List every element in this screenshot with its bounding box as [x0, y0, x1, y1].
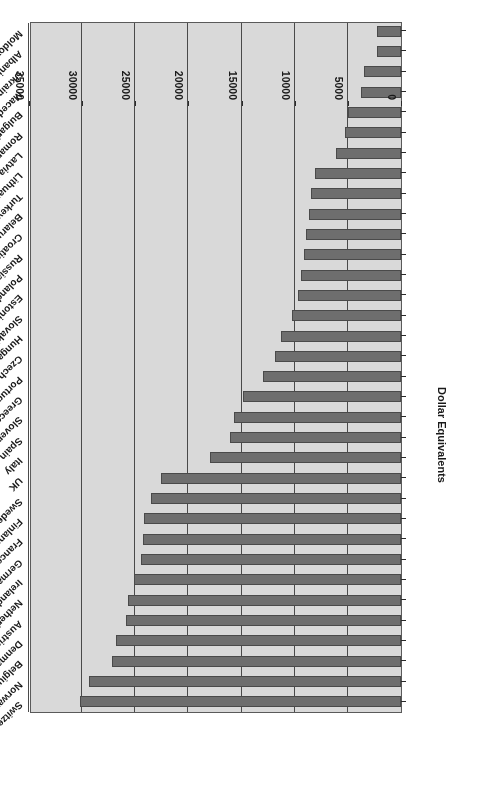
- gridline: [187, 23, 188, 712]
- axis-tick-label: 25000: [120, 71, 132, 100]
- bar[interactable]: [161, 473, 401, 484]
- category-tick: [401, 254, 406, 255]
- bar[interactable]: [263, 371, 401, 382]
- category-tick: [401, 193, 406, 194]
- bar[interactable]: [80, 696, 401, 707]
- category-tick: [401, 294, 406, 295]
- gridline: [294, 23, 295, 712]
- gridline: [81, 23, 82, 712]
- bar[interactable]: [311, 188, 401, 199]
- bar[interactable]: [151, 493, 401, 504]
- axis-tick: [82, 101, 83, 106]
- category-tick: [401, 376, 406, 377]
- bar[interactable]: [243, 392, 401, 403]
- category-tick: [401, 660, 406, 661]
- category-tick: [401, 518, 406, 519]
- axis-tick: [401, 101, 402, 106]
- category-tick: [401, 579, 406, 580]
- axis-tick: [188, 101, 189, 106]
- category-tick: [401, 498, 406, 499]
- bar[interactable]: [141, 554, 401, 565]
- axis-tick-label: 30000: [67, 71, 79, 100]
- bar[interactable]: [230, 432, 401, 443]
- bar[interactable]: [364, 66, 401, 77]
- value-axis-title: Dollar Equivalents: [436, 335, 448, 535]
- gridline: [241, 23, 242, 712]
- category-tick: [401, 30, 406, 31]
- category-tick: [401, 640, 406, 641]
- gridline: [28, 23, 29, 712]
- bar[interactable]: [301, 270, 401, 281]
- bar[interactable]: [275, 351, 401, 362]
- bar[interactable]: [128, 595, 401, 606]
- category-tick: [401, 335, 406, 336]
- bar[interactable]: [234, 412, 401, 423]
- bar[interactable]: [377, 26, 401, 37]
- category-tick: [401, 416, 406, 417]
- category-tick: [401, 437, 406, 438]
- bar-chart-figure: Dollar Equivalents 050001000015000200002…: [0, 0, 482, 797]
- axis-tick: [295, 101, 296, 106]
- axis-tick-label: 0: [386, 94, 398, 100]
- bar[interactable]: [134, 574, 401, 585]
- bar[interactable]: [144, 513, 401, 524]
- category-tick: [401, 559, 406, 560]
- category-tick: [401, 355, 406, 356]
- category-tick: [401, 132, 406, 133]
- category-tick: [401, 71, 406, 72]
- category-tick: [401, 172, 406, 173]
- bar[interactable]: [89, 676, 401, 687]
- bar[interactable]: [126, 615, 401, 626]
- bar[interactable]: [345, 127, 401, 138]
- category-tick: [401, 213, 406, 214]
- bar[interactable]: [298, 290, 401, 301]
- gridline: [134, 23, 135, 712]
- axis-tick: [29, 101, 30, 106]
- axis-tick: [135, 101, 136, 106]
- category-tick: [401, 91, 406, 92]
- bar[interactable]: [210, 452, 401, 463]
- category-tick: [401, 315, 406, 316]
- bar[interactable]: [304, 249, 401, 260]
- category-tick: [401, 457, 406, 458]
- category-tick: [401, 701, 406, 702]
- bar[interactable]: [281, 331, 401, 342]
- rotated-figure-wrapper: Dollar Equivalents 050001000015000200002…: [0, 0, 482, 797]
- category-tick: [401, 396, 406, 397]
- bar[interactable]: [348, 107, 401, 118]
- bar[interactable]: [306, 229, 401, 240]
- bar[interactable]: [309, 209, 401, 220]
- axis-tick-label: 5000: [333, 77, 345, 100]
- axis-tick-label: 20000: [173, 71, 185, 100]
- bar[interactable]: [112, 656, 401, 667]
- bar[interactable]: [143, 534, 401, 545]
- category-tick: [401, 681, 406, 682]
- category-tick: [401, 599, 406, 600]
- category-tick: [401, 274, 406, 275]
- category-label: UK: [7, 476, 25, 494]
- category-tick: [401, 620, 406, 621]
- axis-tick: [242, 101, 243, 106]
- category-tick: [401, 51, 406, 52]
- axis-tick-label: 10000: [280, 71, 292, 100]
- bar[interactable]: [377, 46, 401, 57]
- category-tick: [401, 111, 406, 112]
- category-tick: [401, 538, 406, 539]
- axis-tick-label: 15000: [227, 71, 239, 100]
- category-tick: [401, 233, 406, 234]
- bar[interactable]: [292, 310, 401, 321]
- bar[interactable]: [336, 148, 401, 159]
- plot-area: [30, 22, 402, 713]
- bar[interactable]: [116, 635, 401, 646]
- category-tick: [401, 477, 406, 478]
- category-tick: [401, 152, 406, 153]
- axis-tick: [348, 101, 349, 106]
- bar[interactable]: [315, 168, 401, 179]
